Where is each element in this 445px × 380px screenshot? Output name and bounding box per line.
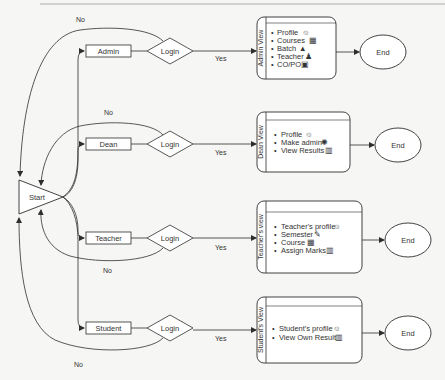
end-label-dean: End <box>391 141 404 150</box>
role-label-admin: Admin <box>98 47 119 56</box>
document-icon: ▣ <box>301 60 309 69</box>
building-icon: ▦ <box>309 36 317 45</box>
user-circle-icon: ☺ <box>333 222 341 231</box>
view-item-view-own-result: View Own Result <box>279 333 337 342</box>
role-row-admin: Admin Login Yes Admin View •Profile☺ •Co… <box>86 17 406 79</box>
login-label-student: Login <box>161 324 179 333</box>
view-item-assign-marks: Assign Marks <box>281 246 326 255</box>
user-circle-icon: ☺ <box>333 324 341 333</box>
yes-label-student: Yes <box>215 335 227 342</box>
trash-icon: ▥ <box>326 246 334 255</box>
login-flow-diagram: Start No No No No Admin Login Yes Admin … <box>0 0 445 380</box>
role-label-dean: Dean <box>100 140 118 149</box>
start-branches <box>63 51 84 328</box>
yes-label-teacher: Yes <box>215 244 227 251</box>
end-label-admin: End <box>376 48 389 57</box>
view-title-teacher: Teacher's view <box>257 213 264 260</box>
view-title-student: Student's View <box>257 306 264 353</box>
view-box-admin <box>257 17 336 79</box>
view-title-admin: Admin View <box>257 29 264 67</box>
end-label-student: End <box>401 329 414 338</box>
login-label-admin: Login <box>161 47 179 56</box>
yes-label-admin: Yes <box>215 55 227 62</box>
start-label: Start <box>29 193 46 202</box>
view-item-copo: CO/PO <box>277 60 301 69</box>
login-label-teacher: Login <box>161 234 179 243</box>
no-label-teacher: No <box>103 267 112 274</box>
role-row-student: Student Login Yes Student's View •Studen… <box>86 297 431 363</box>
edit-icon: ✎ <box>314 230 321 239</box>
svg-text:•: • <box>274 246 277 255</box>
trash-icon: ▥ <box>335 333 343 342</box>
no-label-admin: No <box>76 16 85 23</box>
svg-text:•: • <box>272 324 275 333</box>
no-label-student: No <box>74 361 83 368</box>
no-label-dean: No <box>104 109 113 116</box>
role-label-student: Student <box>96 324 123 333</box>
start-node: Start <box>19 180 63 214</box>
yes-label-dean: Yes <box>215 149 227 156</box>
view-item-students-profile: Student's profile <box>279 324 333 333</box>
trash-icon: ▥ <box>325 146 333 155</box>
login-label-dean: Login <box>161 140 179 149</box>
svg-text:•: • <box>274 146 277 155</box>
svg-text:•: • <box>272 333 275 342</box>
role-row-dean: Dean Login Yes Dean View •Profile☺ •Make… <box>86 112 421 172</box>
view-title-dean: Dean View <box>257 124 264 159</box>
end-label-teacher: End <box>401 236 414 245</box>
role-label-teacher: Teacher <box>95 234 122 243</box>
role-row-teacher: Teacher Login Yes Teacher's view •Teache… <box>86 201 431 273</box>
view-item-view-results: View Results <box>281 146 324 155</box>
svg-text:•: • <box>271 60 274 69</box>
